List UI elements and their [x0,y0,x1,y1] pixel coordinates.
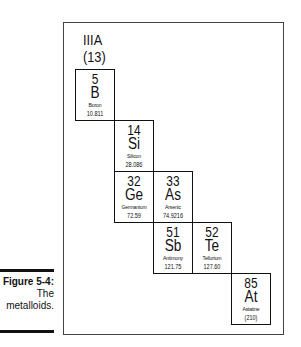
caption-top-rule [0,269,54,272]
element-symbol: Si [118,136,150,152]
element-name: Germanium [118,204,150,211]
element-cell-tellurium: 52 Te Tellurium 127.60 [192,222,232,274]
element-symbol: At [235,289,267,305]
element-cell-germanium: 32 Ge Germanium 72.59 [114,171,154,223]
element-name: Boron [79,102,111,109]
caption-line-2: metalloids. [0,300,54,312]
atomic-mass: (210) [235,314,267,322]
element-name: Tellurium [196,255,228,262]
element-symbol: Te [196,238,228,254]
atomic-mass: 10.811 [79,110,111,118]
element-cell-astatine: 85 At Astatine (210) [231,273,271,325]
caption-line-1: The [0,288,54,300]
element-name: Antimony [157,255,189,262]
element-symbol: Sb [157,238,189,254]
element-symbol: Ge [118,187,150,203]
group-roman: IIIA [83,31,106,48]
element-name: Silicon [118,153,150,160]
atomic-mass: 127.60 [196,263,228,271]
group-header: IIIA (13) [83,31,106,65]
element-name: Arsenic [157,204,189,211]
atomic-mass: 72.59 [118,212,150,220]
element-cell-silicon: 14 Si Silicon 28.086 [114,120,154,172]
group-number: (13) [83,48,106,65]
element-cell-arsenic: 33 As Arsenic 74.9216 [153,171,193,223]
element-cell-antimony: 51 Sb Antimony 121.75 [153,222,193,274]
figure-caption: Figure 5-4: The metalloids. [0,276,54,312]
atomic-mass: 74.9216 [157,212,189,220]
atomic-mass: 28.086 [118,161,150,169]
element-cell-boron: 5 B Boron 10.811 [75,69,115,121]
element-name: Astatine [235,306,267,313]
atomic-mass: 121.75 [157,263,189,271]
caption-bottom-rule [0,330,54,333]
element-symbol: As [157,187,189,203]
element-symbol: B [79,85,111,101]
figure-label: Figure 5-4: [0,276,54,288]
